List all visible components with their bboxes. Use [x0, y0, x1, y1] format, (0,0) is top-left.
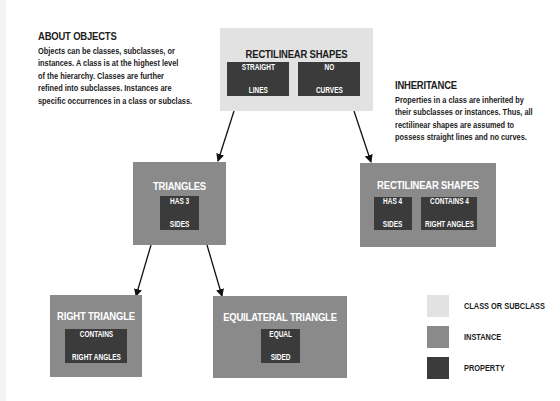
legend-swatch-class — [427, 295, 449, 317]
property-straight-lines: STRAIGHTLINES — [227, 62, 289, 96]
node-title: EQUILATERAL TRIANGLE — [220, 311, 341, 323]
property-equal-sided: EQUALSIDED — [261, 329, 300, 363]
arrow-triangles-to-right-triangle — [136, 245, 151, 296]
property-contains-4-right-angles: CONTAINS 4RIGHT ANGLES — [421, 197, 477, 230]
property-no-curves: NOCURVES — [298, 62, 360, 96]
legend-class-or-subclass: CLASS OR SUBCLASS — [427, 295, 558, 317]
node-title: RECTILINEAR SHAPES — [228, 48, 366, 60]
node-title: RIGHT TRIANGLE — [55, 310, 138, 322]
property-has-3-sides: HAS 3SIDES — [160, 196, 199, 230]
legend-swatch-instance — [427, 326, 449, 348]
property-has-4-sides: HAS 4SIDES — [374, 197, 412, 230]
node-title: RECTILINEAR SHAPES — [367, 179, 489, 191]
legend-swatch-property — [427, 357, 449, 379]
legend-instance: INSTANCE — [427, 326, 507, 348]
node-title: TRIANGLES — [138, 180, 222, 192]
legend-property: PROPERTY — [427, 357, 511, 379]
property-contains-right-angles: CONTAINSRIGHT ANGLES — [65, 329, 127, 363]
arrow-root-to-triangles — [218, 111, 234, 161]
arrow-triangles-to-equilateral — [207, 245, 222, 296]
arrow-root-to-rectilinear — [354, 111, 371, 162]
